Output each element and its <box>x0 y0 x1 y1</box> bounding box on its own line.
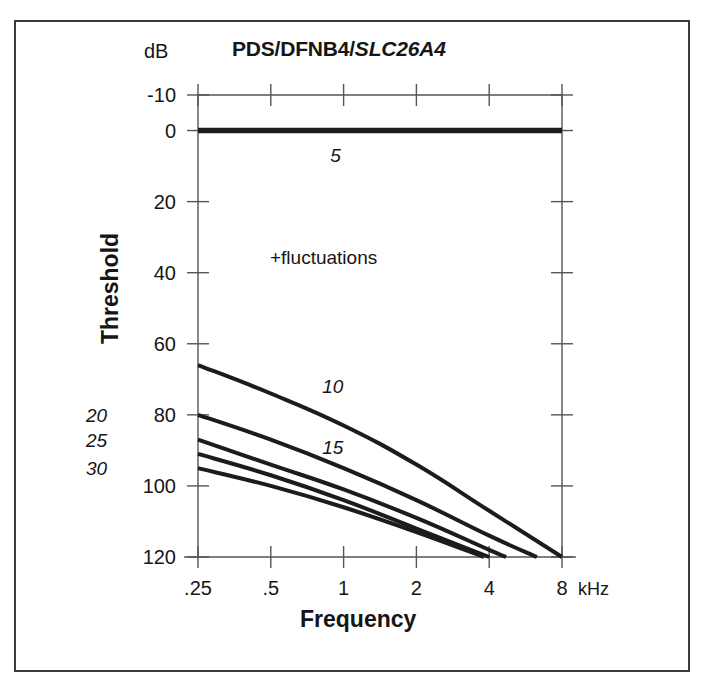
db-unit-label: dB <box>144 41 168 61</box>
x-tick-label-p25: .25 <box>171 578 225 598</box>
curve-label-5: 5 <box>330 146 341 165</box>
figure-root: PDS/DFNB4/SLC26A4 dB kHz Threshold Frequ… <box>0 0 705 677</box>
chart-title-plain: PDS/DFNB4/ <box>232 37 355 60</box>
x-tick-label-1: 1 <box>317 578 371 598</box>
curve-label-15: 15 <box>322 438 343 457</box>
y-tick-label--10: -10 <box>124 85 176 105</box>
x-axis-title: Frequency <box>300 608 416 631</box>
x-tick-label-p5: .5 <box>244 578 298 598</box>
side-label-30: 30 <box>86 459 107 478</box>
curve-label-10: 10 <box>322 377 343 396</box>
y-tick-label-0: 0 <box>124 121 176 141</box>
x-tick-label-4: 4 <box>462 578 516 598</box>
x-tick-label-8: 8 <box>535 578 589 598</box>
y-tick-label-40: 40 <box>124 263 176 283</box>
y-tick-label-60: 60 <box>124 334 176 354</box>
chart-title: PDS/DFNB4/SLC26A4 <box>232 38 446 59</box>
x-tick-label-2: 2 <box>389 578 443 598</box>
y-tick-label-20: 20 <box>124 192 176 212</box>
plot-border <box>198 95 562 557</box>
y-tick-label-80: 80 <box>124 405 176 425</box>
chart-title-gene: SLC26A4 <box>355 37 446 60</box>
y-tick-label-100: 100 <box>124 476 176 496</box>
y-axis-title: Threshold <box>99 189 122 389</box>
audiogram-chart: PDS/DFNB4/SLC26A4 dB kHz Threshold Frequ… <box>0 0 705 677</box>
side-label-25: 25 <box>86 431 107 450</box>
curve-20 <box>198 440 506 557</box>
axis-group <box>184 84 576 568</box>
side-label-20: 20 <box>86 406 107 425</box>
curve-group <box>198 131 562 557</box>
annotation-fluctuations: +fluctuations <box>270 248 377 267</box>
curve-10 <box>198 365 562 557</box>
y-tick-label-120: 120 <box>124 547 176 567</box>
